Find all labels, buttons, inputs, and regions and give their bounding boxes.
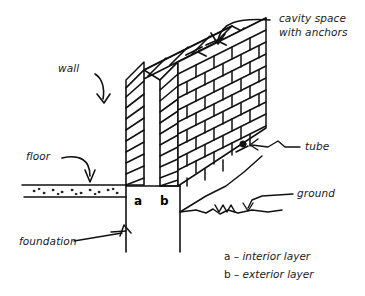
wall-marker-a: a — [134, 194, 142, 208]
key-text-exterior: exterior layer — [243, 268, 314, 280]
label-cavity-space: cavity space with anchors — [279, 11, 348, 39]
label-wall: wall — [58, 62, 79, 75]
tube-leader — [250, 139, 300, 150]
wall-marker-b: b — [160, 194, 169, 208]
label-foundation: foundation — [19, 235, 77, 248]
key-dash-a: – — [230, 250, 242, 262]
label-tube: tube — [305, 140, 329, 153]
key-dash-b: – — [231, 268, 243, 280]
floor-slab — [22, 185, 126, 197]
label-ground: ground — [297, 187, 335, 200]
exterior-wythe-front-face — [160, 62, 178, 186]
key-letter-b: b — [224, 268, 231, 280]
key-row-exterior: b – exterior layer — [224, 268, 314, 281]
cavity-wall-diagram: cavity space with anchors wall tube floo… — [0, 0, 365, 296]
floor-leader — [62, 157, 95, 182]
ground-line — [180, 205, 282, 214]
interior-wythe-front-face — [126, 70, 144, 185]
foundation-leader — [74, 233, 122, 241]
key-row-interior: a – interior layer — [224, 250, 310, 263]
label-floor: floor — [26, 150, 50, 163]
wall-leader — [95, 74, 110, 103]
floor-stipple — [33, 188, 118, 195]
ground-leader — [243, 194, 293, 211]
key-text-interior: interior layer — [242, 250, 310, 262]
